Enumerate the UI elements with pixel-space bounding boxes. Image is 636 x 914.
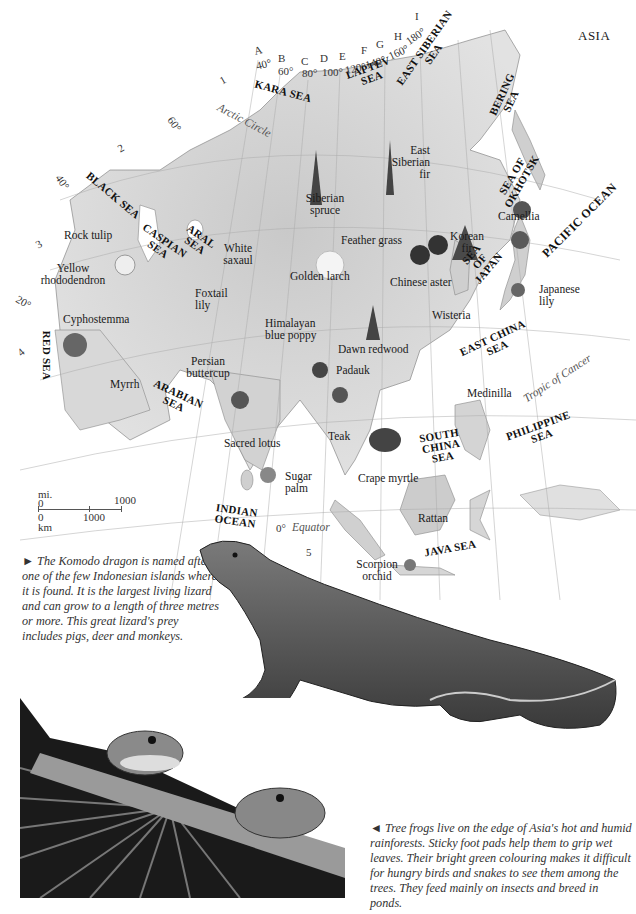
scale-mi-max: 1000 — [114, 494, 136, 506]
plant-myrrh: Myrrh — [110, 378, 139, 390]
plant-golden-larch: Golden larch — [290, 270, 350, 282]
plant-medinilla: Medinilla — [467, 387, 512, 399]
scale-line — [38, 509, 122, 510]
plant-chinese-aster: Chinese aster — [390, 276, 452, 288]
grid-letter-i: I — [415, 10, 419, 22]
grid-letter-c: C — [301, 55, 308, 67]
plant-himalayan-blue-poppy: Himalayan blue poppy — [265, 317, 325, 341]
plant-padauk: Padauk — [336, 364, 370, 376]
plant-persian-buttercup: Persian buttercup — [183, 355, 233, 379]
grid-letter-f: F — [361, 44, 367, 56]
plant-feather-grass: Feather grass — [341, 234, 402, 246]
grid-lon-80: 80° — [302, 67, 317, 79]
tree-frogs-photo — [20, 698, 345, 898]
page-title: ASIA — [578, 28, 610, 44]
plant-dawn-redwood: Dawn redwood — [338, 343, 409, 355]
grid-letter-g: G — [376, 38, 384, 50]
plant-camellia: Camellia — [498, 210, 540, 222]
plant-crape-myrtle: Crape myrtle — [358, 472, 418, 484]
plant-east-siberian-fir: East Siberian fir — [386, 144, 430, 180]
plant-sacred-lotus: Sacred lotus — [224, 437, 281, 449]
grid-letter-d: D — [320, 52, 328, 64]
plant-rattan: Rattan — [418, 512, 448, 524]
scale-bar: mi. 0 1000 0 1000 km — [38, 488, 138, 548]
grid-letter-h: H — [394, 30, 402, 42]
plant-wisteria: Wisteria — [432, 309, 471, 321]
plant-teak: Teak — [328, 430, 350, 442]
grid-letter-e: E — [339, 50, 346, 62]
plant-korean-fir: Korean fir — [446, 230, 488, 254]
plant-japanese-lily: Japanese lily — [539, 283, 579, 307]
grid-letter-b: B — [278, 52, 285, 64]
plant-siberian-spruce: Siberian spruce — [300, 192, 350, 216]
scale-km-label: km — [38, 521, 52, 533]
plant-yellow-rhododendron: Yellow rhododendron — [38, 262, 108, 286]
grid-lon-60: 60° — [278, 65, 293, 77]
plant-rock-tulip: Rock tulip — [64, 229, 112, 241]
tree-frogs-caption: ◄ Tree frogs live on the edge of Asia's … — [370, 821, 632, 911]
grid-lon-100: 100° — [322, 66, 343, 78]
plant-foxtail-lily: Foxtail lily — [195, 287, 231, 311]
sea-red: RED SEA — [41, 331, 52, 380]
plant-sugar-palm: Sugar palm — [285, 470, 321, 494]
plant-white-saxaul: White saxaul — [218, 242, 258, 266]
scale-km-mid: 1000 — [83, 511, 105, 523]
plant-cyphostemma: Cyphostemma — [63, 313, 129, 325]
